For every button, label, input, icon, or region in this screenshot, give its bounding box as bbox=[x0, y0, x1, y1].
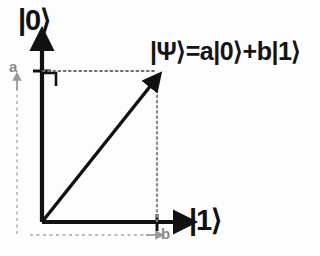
state-vector-arrow bbox=[42, 84, 152, 222]
component-b-label: b bbox=[161, 226, 170, 241]
x-axis-label: |1⟩ bbox=[189, 206, 221, 235]
qubit-state-diagram: |0⟩ |1⟩ |Ψ⟩=a|0⟩+b|1⟩ a b bbox=[0, 0, 320, 256]
state-equation-label: |Ψ⟩=a|0⟩+b|1⟩ bbox=[150, 39, 301, 64]
right-angle-marker-icon bbox=[44, 73, 56, 86]
component-a-label: a bbox=[9, 59, 17, 74]
y-axis-label: |0⟩ bbox=[18, 6, 50, 35]
